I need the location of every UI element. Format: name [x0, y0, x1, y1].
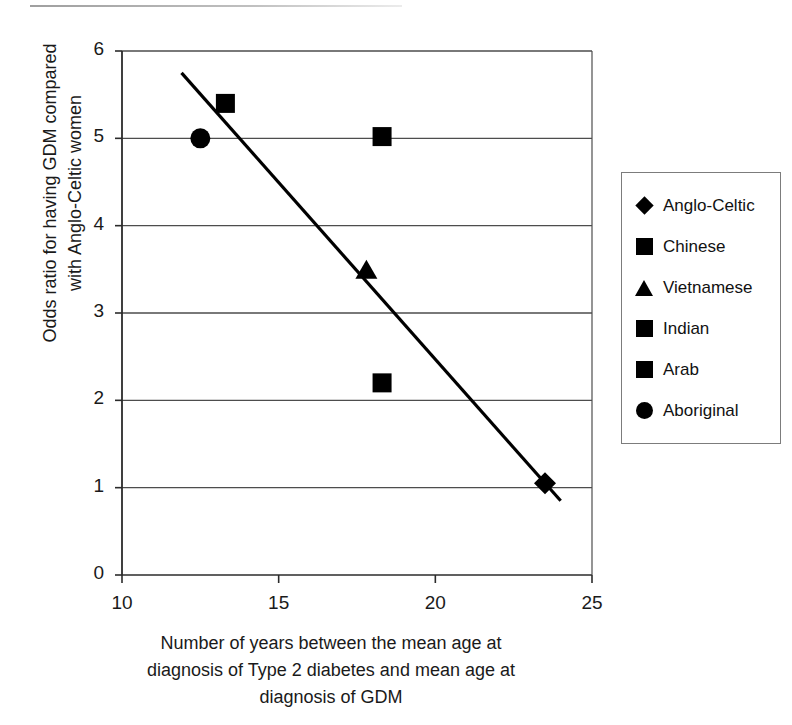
trendline [182, 73, 561, 501]
trend-line [182, 73, 561, 501]
x-axis-title: Number of years between the mean age at … [96, 630, 566, 711]
data-point-aboriginal [190, 128, 210, 148]
square-marker-icon [634, 360, 654, 380]
y-axis-title-line-2: with Anglo-Celtic women [63, 43, 88, 342]
legend-label-arab: Arab [663, 360, 699, 380]
square-marker-icon [634, 319, 654, 339]
y-tick-label-1: 1 [74, 475, 104, 497]
circle-glyph [636, 402, 653, 419]
triangle-marker-icon [634, 278, 654, 298]
axis-ticks [115, 51, 592, 583]
legend-item-vietnamese[interactable]: Vietnamese [634, 267, 780, 308]
x-tick-label-15: 15 [259, 592, 299, 614]
legend-item-arab[interactable]: Arab [634, 349, 780, 390]
data-point-arab [373, 373, 392, 392]
square-glyph [636, 320, 653, 337]
legend-label-indian: Indian [663, 319, 709, 339]
square-glyph [636, 238, 653, 255]
legend-item-chinese[interactable]: Chinese [634, 226, 780, 267]
x-axis-title-line-1: Number of years between the mean age at [96, 630, 566, 657]
data-point-indian [373, 127, 392, 146]
y-tick-label-0: 0 [74, 562, 104, 584]
legend-item-indian[interactable]: Indian [634, 308, 780, 349]
data-point-chinese [216, 94, 235, 113]
y-axis-title-line-1: Odds ratio for having GDM compared [38, 43, 63, 342]
x-axis-title-line-3: diagnosis of GDM [96, 684, 566, 711]
circle-marker-icon [634, 401, 654, 421]
triangle-glyph [635, 280, 653, 296]
diamond-marker-icon [634, 196, 654, 216]
x-axis-title-line-2: diagnosis of Type 2 diabetes and mean ag… [96, 657, 566, 684]
x-tick-label-20: 20 [415, 592, 455, 614]
square-marker-icon [634, 237, 654, 257]
legend-item-aboriginal[interactable]: Aboriginal [634, 390, 780, 431]
scatter-chart-figure: 0123456 10152025 Odds ratio for having G… [0, 0, 792, 725]
x-tick-label-10: 10 [102, 592, 142, 614]
chart-legend: Anglo-CelticChineseVietnameseIndianArabA… [621, 172, 781, 444]
legend-item-anglo-celtic[interactable]: Anglo-Celtic [634, 185, 780, 226]
legend-label-vietnamese: Vietnamese [663, 278, 752, 298]
x-tick-label-25: 25 [572, 592, 612, 614]
legend-label-anglo-celtic: Anglo-Celtic [663, 196, 755, 216]
legend-label-aboriginal: Aboriginal [663, 401, 739, 421]
data-point-vietnamese [355, 260, 377, 279]
legend-label-chinese: Chinese [663, 237, 725, 257]
square-glyph [636, 361, 653, 378]
diamond-glyph [635, 196, 653, 214]
y-axis-title: Odds ratio for having GDM compared with … [35, 0, 91, 408]
